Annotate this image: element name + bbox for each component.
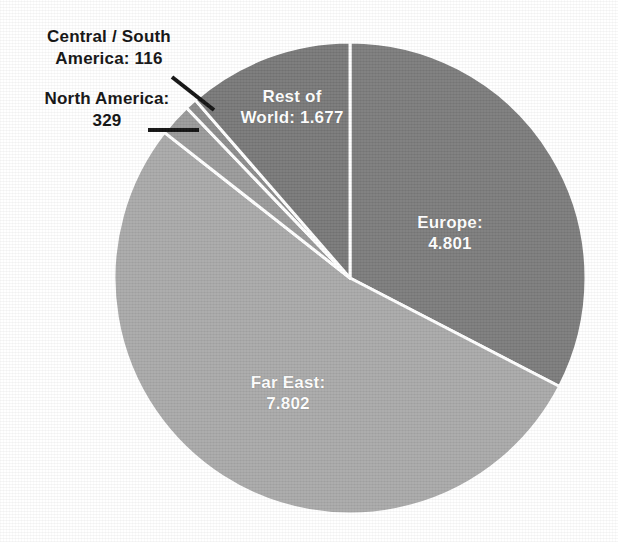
slice-label-north-america-value: 329 (93, 111, 122, 130)
slice-label-europe-value: 4.801 (428, 234, 472, 253)
slice-label-far-east: Far East:7.802 (212, 372, 364, 414)
slice-label-central-south-america-value: America: 116 (55, 49, 162, 68)
slice-label-rest-of-world: Rest ofWorld: 1.677 (222, 86, 362, 128)
slice-label-europe-name: Europe: (417, 213, 483, 232)
slice-label-rest-of-world-name: Rest of (262, 87, 321, 106)
slice-label-central-south-america: Central / SouthAmerica: 116 (18, 26, 200, 70)
pie-chart: Europe:4.801 Far East:7.802 Rest ofWorld… (0, 0, 618, 542)
slice-label-north-america: North America:329 (14, 88, 200, 132)
pie-chart-canvas (0, 0, 618, 542)
slice-label-europe: Europe:4.801 (386, 212, 514, 254)
slice-label-rest-of-world-value: World: 1.677 (240, 108, 343, 127)
slice-label-north-america-name: North America: (45, 89, 170, 108)
slice-label-far-east-value: 7.802 (266, 394, 310, 413)
slice-label-far-east-name: Far East: (251, 373, 326, 392)
slice-label-central-south-america-name: Central / South (47, 27, 171, 46)
